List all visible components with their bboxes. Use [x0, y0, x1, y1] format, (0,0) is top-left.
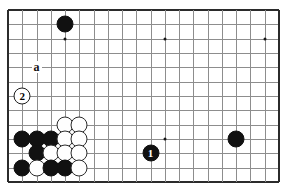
point-label-layer: a	[0, 0, 287, 194]
point-label-a: a	[32, 61, 42, 73]
go-board-diagram: 12 a	[0, 0, 287, 194]
